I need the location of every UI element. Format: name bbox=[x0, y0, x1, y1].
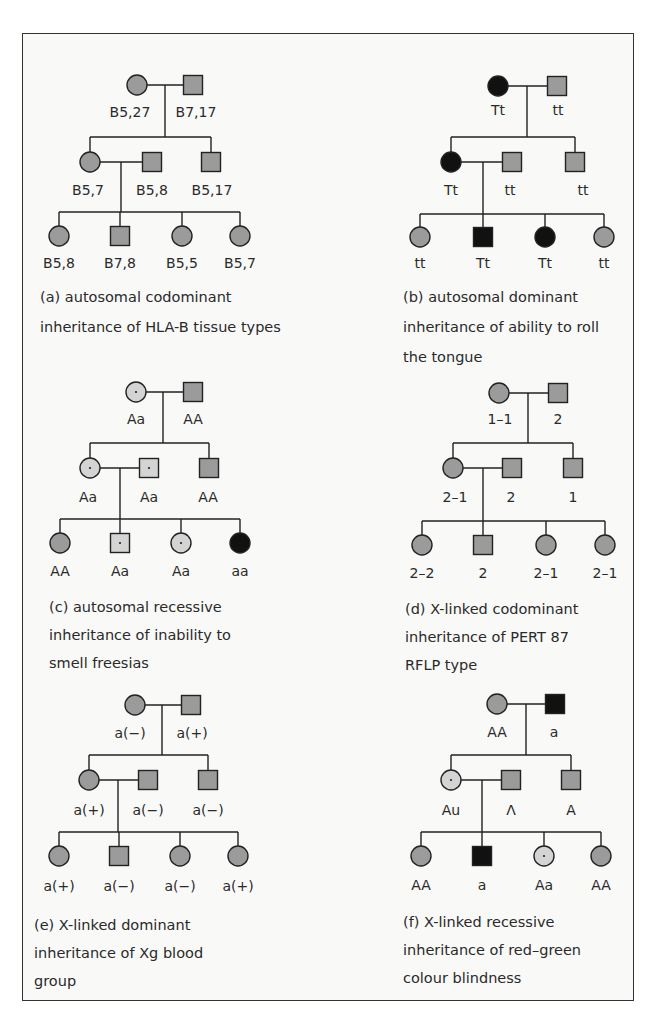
genotype-label: 2–1 bbox=[443, 489, 468, 505]
genotype-label: Tt bbox=[475, 255, 491, 271]
male-normal-symbol bbox=[143, 153, 162, 172]
male-normal-symbol bbox=[562, 771, 581, 790]
female-circle-icon bbox=[230, 533, 250, 553]
genotype-label: Tt bbox=[537, 255, 553, 271]
male-normal-symbol bbox=[548, 77, 567, 96]
female-normal-symbol bbox=[594, 227, 614, 247]
genotype-label: Λ bbox=[506, 802, 516, 818]
female-circle-icon bbox=[49, 226, 69, 246]
genotype-label: B7,17 bbox=[176, 104, 217, 120]
carrier-dot-icon bbox=[89, 467, 91, 469]
genotype-label: A bbox=[566, 802, 576, 818]
male-normal-symbol bbox=[139, 771, 158, 790]
male-affected-symbol bbox=[474, 228, 493, 247]
female-carrier-symbol bbox=[534, 846, 554, 866]
genotype-label: 2–2 bbox=[410, 565, 435, 581]
female-circle-icon bbox=[412, 535, 432, 555]
pedigree-panel-a: B5,27B7,17B5,7B5,8B5,17B5,8B7,8B5,5B5,7(… bbox=[40, 75, 281, 335]
female-carrier-symbol bbox=[80, 458, 100, 478]
pedigree-figure: B5,27B7,17B5,7B5,8B5,17B5,8B7,8B5,5B5,7(… bbox=[0, 0, 653, 1018]
male-normal-symbol bbox=[474, 536, 493, 555]
female-normal-symbol bbox=[79, 770, 99, 790]
genotype-label: B5,7 bbox=[224, 255, 256, 271]
carrier-dot-icon bbox=[148, 467, 150, 469]
male-affected-symbol bbox=[473, 847, 492, 866]
female-normal-symbol bbox=[172, 226, 192, 246]
male-normal-symbol bbox=[111, 227, 130, 246]
panel-caption: inheritance of PERT 87 bbox=[405, 629, 569, 645]
genotype-label: Aa bbox=[111, 563, 129, 579]
panel-caption: (e) X-linked dominant bbox=[34, 917, 191, 933]
female-normal-symbol bbox=[487, 694, 507, 714]
male-square-icon bbox=[503, 153, 522, 172]
genotype-label: B5,7 bbox=[72, 182, 104, 198]
male-square-icon bbox=[184, 76, 203, 95]
genotype-label: a(+) bbox=[73, 802, 104, 818]
genotype-label: Au bbox=[442, 802, 460, 818]
genotype-label: B5,17 bbox=[192, 182, 233, 198]
genotype-label: AA bbox=[591, 877, 611, 893]
male-square-icon bbox=[549, 384, 568, 403]
female-carrier-symbol bbox=[441, 770, 461, 790]
female-circle-icon bbox=[441, 152, 461, 172]
genotype-label: aa bbox=[231, 563, 248, 579]
male-normal-symbol bbox=[549, 384, 568, 403]
male-normal-symbol bbox=[110, 847, 129, 866]
female-normal-symbol bbox=[125, 695, 145, 715]
panel-caption: smell freesias bbox=[49, 655, 149, 671]
panel-caption: group bbox=[34, 973, 76, 989]
female-normal-symbol bbox=[80, 152, 100, 172]
panel-caption: the tongue bbox=[403, 349, 483, 365]
panel-caption: (b) autosomal dominant bbox=[403, 289, 578, 305]
pedigree-panel-e: a(−)a(+)a(+)a(−)a(−)a(+)a(−)a(−)a(+)(e) … bbox=[34, 695, 254, 989]
male-normal-symbol bbox=[182, 696, 201, 715]
genotype-label: tt bbox=[599, 255, 610, 271]
female-circle-icon bbox=[79, 770, 99, 790]
female-circle-icon bbox=[49, 846, 69, 866]
genotype-label: a(+) bbox=[222, 878, 253, 894]
female-affected-symbol bbox=[535, 227, 555, 247]
female-normal-symbol bbox=[50, 533, 70, 553]
panel-caption: (d) X-linked codominant bbox=[405, 601, 579, 617]
genotype-label: AA bbox=[411, 877, 431, 893]
female-circle-icon bbox=[591, 846, 611, 866]
genotype-label: Aa bbox=[140, 489, 158, 505]
genotype-label: B7,8 bbox=[104, 255, 136, 271]
female-carrier-symbol bbox=[171, 533, 191, 553]
genotype-label: a(−) bbox=[103, 878, 134, 894]
female-normal-symbol bbox=[230, 226, 250, 246]
male-normal-symbol bbox=[202, 153, 221, 172]
genotype-label: AA bbox=[487, 724, 507, 740]
male-square-icon bbox=[139, 771, 158, 790]
female-circle-icon bbox=[170, 846, 190, 866]
female-normal-symbol bbox=[410, 227, 430, 247]
female-carrier-symbol bbox=[126, 382, 146, 402]
male-square-icon bbox=[474, 228, 493, 247]
female-circle-icon bbox=[411, 846, 431, 866]
panel-caption: RFLP type bbox=[405, 657, 477, 673]
male-normal-symbol bbox=[200, 459, 219, 478]
female-normal-symbol bbox=[49, 846, 69, 866]
genotype-label: 2 bbox=[479, 565, 488, 581]
genotype-label: tt bbox=[578, 182, 589, 198]
male-normal-symbol bbox=[199, 771, 218, 790]
genotype-label: a(+) bbox=[43, 878, 74, 894]
female-affected-symbol bbox=[488, 76, 508, 96]
panel-caption: inheritance of red–green bbox=[403, 942, 581, 958]
female-circle-icon bbox=[172, 226, 192, 246]
carrier-dot-icon bbox=[135, 391, 137, 393]
male-carrier-symbol bbox=[140, 459, 159, 478]
genotype-label: Aa bbox=[127, 411, 145, 427]
male-square-icon bbox=[503, 459, 522, 478]
genotype-label: 1–1 bbox=[488, 411, 513, 427]
male-normal-symbol bbox=[566, 153, 585, 172]
female-circle-icon bbox=[443, 458, 463, 478]
female-circle-icon bbox=[595, 535, 615, 555]
genotype-label: B5,8 bbox=[136, 182, 168, 198]
genotype-label: 1 bbox=[569, 489, 578, 505]
male-square-icon bbox=[562, 771, 581, 790]
female-normal-symbol bbox=[412, 535, 432, 555]
male-square-icon bbox=[200, 459, 219, 478]
female-circle-icon bbox=[230, 226, 250, 246]
female-normal-symbol bbox=[591, 846, 611, 866]
